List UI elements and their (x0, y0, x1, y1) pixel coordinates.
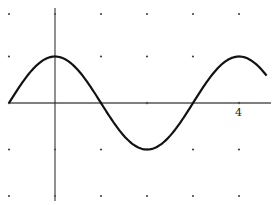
grid-dot (100, 195, 102, 197)
grid-dot (192, 148, 194, 150)
grid-dot (100, 55, 102, 57)
grid-dot (8, 55, 10, 57)
grid-dot (146, 195, 148, 197)
grid-dot (8, 13, 10, 15)
grid-dot (146, 55, 148, 57)
grid-dot (8, 148, 10, 150)
grid-dot (238, 13, 240, 15)
grid-dots (8, 13, 240, 197)
grid-dot (192, 13, 194, 15)
cosine-plot (0, 0, 274, 205)
grid-dot (100, 13, 102, 15)
grid-dot (100, 148, 102, 150)
grid-dot (8, 195, 10, 197)
grid-dot (146, 13, 148, 15)
grid-dot (238, 195, 240, 197)
grid-dot (192, 195, 194, 197)
grid-dot (238, 148, 240, 150)
grid-dot (192, 55, 194, 57)
x-tick-label-4: 4 (235, 106, 242, 119)
